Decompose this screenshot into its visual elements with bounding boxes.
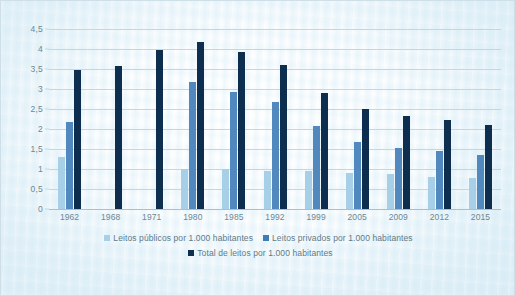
- bar: [436, 151, 443, 209]
- bar: [115, 66, 122, 209]
- x-axis-tick-label: 1971: [131, 212, 172, 222]
- legend-item[interactable]: Total de leitos por 1.000 habitantes: [188, 248, 332, 258]
- chart-legend: Leitos públicos por 1.000 habitantesLeit…: [1, 233, 515, 263]
- x-axis-tick-label: 2015: [460, 212, 501, 222]
- bar: [362, 109, 369, 209]
- bar: [305, 171, 312, 209]
- bar: [469, 178, 476, 209]
- bar-group: [337, 29, 378, 209]
- x-axis-tick-label: 1999: [296, 212, 337, 222]
- bar: [238, 52, 245, 209]
- bar: [74, 70, 81, 209]
- legend-item-label: Total de leitos por 1.000 habitantes: [197, 248, 332, 258]
- legend-swatch-icon: [104, 235, 110, 241]
- bar-group: [296, 29, 337, 209]
- bar: [181, 169, 188, 209]
- bar-group: [131, 29, 172, 209]
- x-axis-tick-label: 2012: [419, 212, 460, 222]
- bar-group: [49, 29, 90, 209]
- bar: [230, 92, 237, 209]
- x-axis-tick-label: 1980: [172, 212, 213, 222]
- legend-swatch-icon: [188, 250, 194, 256]
- y-axis-tick-label: 1,5: [31, 144, 43, 154]
- bar: [280, 65, 287, 209]
- y-axis-tick-label: 0: [38, 204, 43, 214]
- y-axis-tick-label: 3,5: [31, 64, 43, 74]
- bar: [395, 148, 402, 209]
- bar: [58, 157, 65, 209]
- bar: [197, 42, 204, 209]
- x-axis-tick-label: 1992: [254, 212, 295, 222]
- bar: [321, 93, 328, 209]
- plot-area: 4,543,532,521,510,50: [49, 29, 501, 209]
- y-axis-tick-label: 3: [38, 84, 43, 94]
- y-axis-tick-label: 2: [38, 124, 43, 134]
- bar: [444, 120, 451, 209]
- y-axis-tick-label: 2,5: [31, 104, 43, 114]
- gridline: [49, 209, 501, 210]
- bar: [313, 126, 320, 209]
- bar-group: [213, 29, 254, 209]
- bar: [428, 177, 435, 209]
- legend-row-2: Total de leitos por 1.000 habitantes: [1, 248, 515, 258]
- bar: [403, 116, 410, 209]
- x-axis-tick-label: 2005: [337, 212, 378, 222]
- legend-swatch-icon: [263, 235, 269, 241]
- bar: [477, 155, 484, 209]
- x-axis-tick-label: 2009: [378, 212, 419, 222]
- y-axis-tick-label: 1: [38, 164, 43, 174]
- bar: [156, 50, 163, 209]
- bar-series-container: [49, 29, 501, 209]
- x-axis-tick-label: 1968: [90, 212, 131, 222]
- legend-row-1: Leitos públicos por 1.000 habitantesLeit…: [1, 233, 515, 243]
- bar-group: [254, 29, 295, 209]
- y-axis-tick-label: 0,5: [31, 184, 43, 194]
- bar: [354, 142, 361, 209]
- bar: [272, 102, 279, 209]
- y-axis-tick-label: 4,5: [31, 24, 43, 34]
- bar-group: [378, 29, 419, 209]
- bar: [264, 171, 271, 209]
- bar: [485, 125, 492, 209]
- bar-group: [90, 29, 131, 209]
- legend-item[interactable]: Leitos privados por 1.000 habitantes: [263, 233, 413, 243]
- x-axis-tick-label: 1962: [49, 212, 90, 222]
- bar: [66, 122, 73, 209]
- legend-item[interactable]: Leitos públicos por 1.000 habitantes: [104, 233, 253, 243]
- chart-figure: 4,543,532,521,510,50 1962196819711980198…: [0, 0, 515, 296]
- bar: [346, 173, 353, 209]
- bar: [387, 174, 394, 209]
- bar-group: [172, 29, 213, 209]
- y-axis-tick-label: 4: [38, 44, 43, 54]
- bar: [222, 169, 229, 209]
- bar: [189, 82, 196, 209]
- x-axis-tick-label: 1985: [213, 212, 254, 222]
- bar-group: [419, 29, 460, 209]
- x-axis-labels: 1962196819711980198519921999200520092012…: [49, 212, 501, 222]
- legend-item-label: Leitos privados por 1.000 habitantes: [272, 233, 413, 243]
- legend-item-label: Leitos públicos por 1.000 habitantes: [113, 233, 253, 243]
- bar-group: [460, 29, 501, 209]
